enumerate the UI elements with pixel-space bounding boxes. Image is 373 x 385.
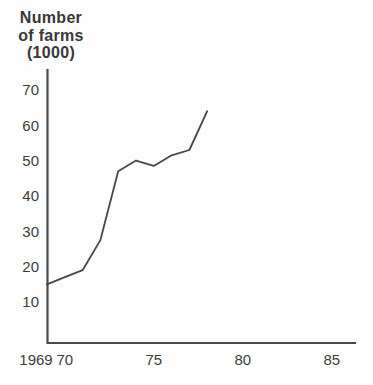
y-tick-label: 30 bbox=[22, 223, 39, 240]
x-tick-label: 80 bbox=[234, 351, 251, 368]
x-tick-label: 70 bbox=[56, 351, 73, 368]
number-of-farms-chart: Number of farms (1000) 70605040302010196… bbox=[0, 0, 373, 385]
y-tick-label: 60 bbox=[22, 117, 39, 134]
y-tick-label: 40 bbox=[22, 187, 39, 204]
farms-data-line bbox=[47, 111, 207, 284]
x-tick-label: 75 bbox=[145, 351, 162, 368]
axes bbox=[48, 70, 356, 343]
plot-area: 70605040302010196970758085 bbox=[0, 0, 373, 385]
y-tick-label: 50 bbox=[22, 152, 39, 169]
x-tick-label: 85 bbox=[323, 351, 340, 368]
y-tick-label: 70 bbox=[22, 81, 39, 98]
y-tick-label: 10 bbox=[22, 293, 39, 310]
y-tick-label: 20 bbox=[22, 258, 39, 275]
x-tick-label: 1969 bbox=[19, 351, 52, 368]
